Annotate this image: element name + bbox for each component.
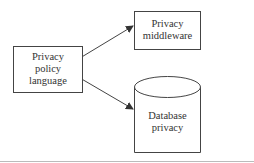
label-line: Privacy	[134, 18, 201, 30]
privacy-middleware-label: Privacy middleware	[134, 18, 201, 42]
database-privacy-label: Database privacy	[134, 110, 201, 134]
arrow-to-database-privacy	[83, 80, 134, 110]
arrow-to-privacy-middleware	[83, 26, 134, 57]
label-line: language	[13, 75, 83, 87]
label-line: policy	[13, 63, 83, 75]
label-line: middleware	[134, 30, 201, 42]
label-line: Database	[134, 110, 201, 122]
label-line: privacy	[134, 122, 201, 134]
privacy-policy-language-label: Privacy policy language	[13, 51, 83, 87]
label-line: Privacy	[13, 51, 83, 63]
